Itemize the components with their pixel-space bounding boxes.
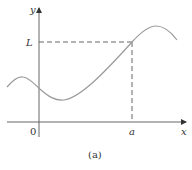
x-axis-label: x xyxy=(181,126,187,137)
figure-caption: (a) xyxy=(88,149,102,160)
limit-diagram: y x L a 0 (a) xyxy=(0,0,192,170)
L-label: L xyxy=(25,37,33,48)
a-label: a xyxy=(129,126,135,137)
y-axis-label: y xyxy=(29,4,36,15)
origin-label: 0 xyxy=(30,126,36,137)
